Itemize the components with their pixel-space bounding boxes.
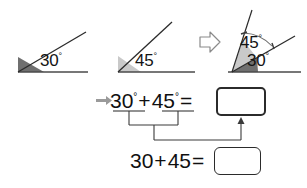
row1-term1-degree-symbol: ° [133,91,137,102]
angle-combined-lower-value: 30 [247,51,266,70]
row1-term2-degree-symbol: ° [175,91,179,102]
up-arrow-icon [238,117,245,124]
double-right-arrow-icon [200,32,220,52]
angle-combined-upper-label: 45° [240,34,262,51]
answer-box-plain[interactable] [214,147,261,175]
angle-combined-arc-end-tick [272,43,274,49]
angle-45-label: 45° [135,52,157,69]
row2-equals: = [191,149,205,172]
angle-combined-lower-label: 30° [247,52,269,69]
row1-equals: = [179,89,193,112]
row2-term1: 30 [130,149,153,172]
row1-operator: + [137,89,151,112]
worksheet-canvas: 30° 45° 45° 30° 30°+45°= 30+45= [0,0,307,188]
angle-30-value: 30 [40,51,59,70]
answer-box-with-degrees[interactable] [216,87,266,116]
equation-row-with-degrees: 30°+45°= [110,90,193,111]
angle-30-label: 30° [40,52,62,69]
row2-operator: + [153,149,167,172]
equation-row-plain: 30+45= [130,150,205,171]
angle-combined-upper-value: 45 [240,33,259,52]
row1-term1: 30 [110,89,133,112]
angle-30-degree-symbol: ° [59,51,63,61]
angle-combined-upper-degree-symbol: ° [259,33,263,43]
angle-45-degree-symbol: ° [154,51,158,61]
angle-combined-lower-degree-symbol: ° [266,51,270,61]
angle-45-value: 45 [135,51,154,70]
row1-term2: 45 [152,89,175,112]
row2-term2: 45 [168,149,191,172]
